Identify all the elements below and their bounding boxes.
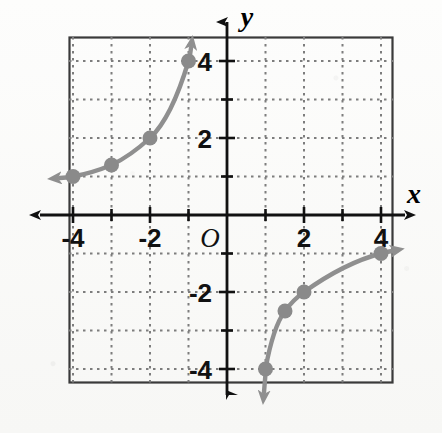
data-point [66, 169, 81, 184]
graph-figure: -4 -2 2 4 O 4 2 -2 -4 x y [0, 0, 442, 433]
x-axis-label: x [406, 178, 421, 209]
data-point [181, 54, 196, 69]
data-point [297, 285, 312, 300]
x-tick-label-minus4: -4 [61, 223, 85, 253]
data-point [278, 304, 293, 319]
y-tick-label-2: 2 [198, 124, 212, 154]
curve-right-branch [258, 246, 392, 392]
y-tick-label-minus4: -4 [189, 355, 213, 385]
coordinate-plane: -4 -2 2 4 O 4 2 -2 -4 x y [0, 0, 442, 433]
data-point [104, 158, 119, 173]
x-tick-label-minus2: -2 [138, 223, 161, 253]
y-tick-label-minus2: -2 [189, 278, 212, 308]
y-tick-label-4: 4 [198, 47, 213, 77]
curve-left-path [73, 61, 189, 177]
curve-right-start-arrow [264, 374, 266, 392]
curve-left-branch [60, 48, 196, 184]
x-tick-label-2: 2 [297, 223, 311, 253]
data-point [258, 362, 273, 377]
origin-label: O [200, 223, 220, 253]
y-axis-label: y [238, 1, 254, 32]
data-point [143, 131, 158, 146]
data-point [374, 246, 389, 261]
